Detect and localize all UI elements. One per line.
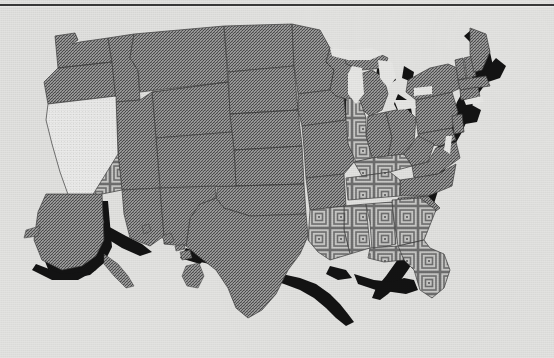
state-kansas <box>234 146 304 186</box>
state-utah <box>116 92 160 190</box>
state-colorado <box>156 132 236 188</box>
state-georgia <box>392 198 436 246</box>
us-choropleth-map <box>0 8 554 358</box>
state-florida-panhandle <box>368 246 404 262</box>
state-alabama <box>366 202 396 250</box>
state-new-jersey <box>452 114 464 134</box>
hawaii-big-island <box>182 263 204 288</box>
state-south-dakota <box>228 66 298 114</box>
state-north-dakota <box>224 24 294 72</box>
state-nebraska <box>230 110 302 150</box>
state-arkansas <box>306 174 346 210</box>
hawaii-maui <box>180 250 192 260</box>
top-horizontal-rule <box>0 4 554 6</box>
state-louisiana <box>308 206 350 260</box>
map-page: United States choropleth map Albers-styl… <box>0 0 554 358</box>
state-tennessee <box>346 172 400 200</box>
state-missouri <box>302 120 354 178</box>
state-texas <box>186 198 308 318</box>
map-svg <box>0 8 554 358</box>
alaska-panhandle <box>104 254 134 288</box>
alaska-aleutians <box>24 226 40 238</box>
state-montana <box>130 26 228 92</box>
